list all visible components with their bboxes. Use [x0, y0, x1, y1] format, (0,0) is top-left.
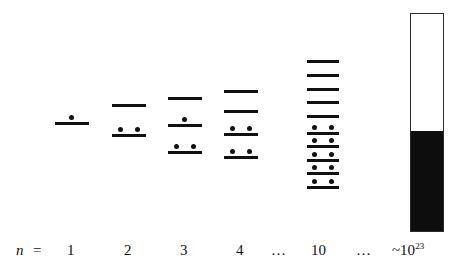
energy-level [112, 134, 146, 137]
axis-ellipsis-2: … [356, 243, 371, 258]
axis-tick-bulk: ~1023 [392, 243, 424, 258]
energy-level [168, 97, 202, 100]
electron-dot [312, 138, 317, 143]
energy-level [224, 156, 258, 159]
electron-dot [191, 144, 196, 149]
energy-level [224, 90, 258, 93]
electron-dot [312, 179, 317, 184]
energy-level [112, 104, 146, 107]
electron-dot [135, 127, 140, 132]
electron-dot [329, 179, 334, 184]
axis-tick-n4: 4 [236, 243, 244, 258]
continuum-band-filled [411, 131, 443, 231]
energy-level [307, 132, 339, 135]
electron-dot [329, 138, 334, 143]
continuum-band-box [410, 13, 444, 232]
energy-level [307, 88, 339, 91]
electron-dot [174, 144, 179, 149]
axis-tick-n2: 2 [124, 243, 132, 258]
axis-tick-bulk-base: ~10 [392, 242, 415, 258]
axis-tick-n1: 1 [67, 243, 75, 258]
level-column-n3 [168, 0, 202, 240]
electron-dot [118, 127, 123, 132]
energy-level [307, 60, 339, 63]
electron-dot [312, 165, 317, 170]
energy-level [224, 133, 258, 136]
axis-tick-n10: 10 [311, 243, 326, 258]
electron-dot [329, 125, 334, 130]
electron-dot [230, 149, 235, 154]
energy-level [307, 186, 339, 189]
electron-dot [312, 125, 317, 130]
electron-dot [247, 149, 252, 154]
axis-tick-bulk-exponent: 23 [415, 241, 424, 251]
energy-level [307, 74, 339, 77]
level-column-n10 [307, 0, 339, 240]
energy-level [307, 115, 339, 118]
electron-dot [329, 165, 334, 170]
axis-ellipsis-1: … [271, 243, 286, 258]
energy-level [307, 159, 339, 162]
electron-dot [247, 126, 252, 131]
electron-dot [69, 115, 74, 120]
energy-level [168, 124, 202, 127]
energy-level [224, 110, 258, 113]
level-column-n1 [55, 0, 89, 240]
energy-level [168, 151, 202, 154]
axis-equals-sign: = [33, 243, 41, 258]
axis-tick-n3: 3 [180, 243, 188, 258]
axis-symbol-n: n [16, 243, 24, 258]
level-column-n2 [112, 0, 146, 240]
energy-level [307, 172, 339, 175]
energy-level-diagram: n = 1 2 3 4 … 10 … ~1023 [0, 0, 454, 275]
level-column-n4 [224, 0, 258, 240]
energy-level [307, 145, 339, 148]
electron-dot [329, 152, 334, 157]
energy-level [55, 122, 89, 125]
energy-level [307, 101, 339, 104]
electron-dot [312, 152, 317, 157]
electron-dot [182, 117, 187, 122]
electron-dot [230, 126, 235, 131]
